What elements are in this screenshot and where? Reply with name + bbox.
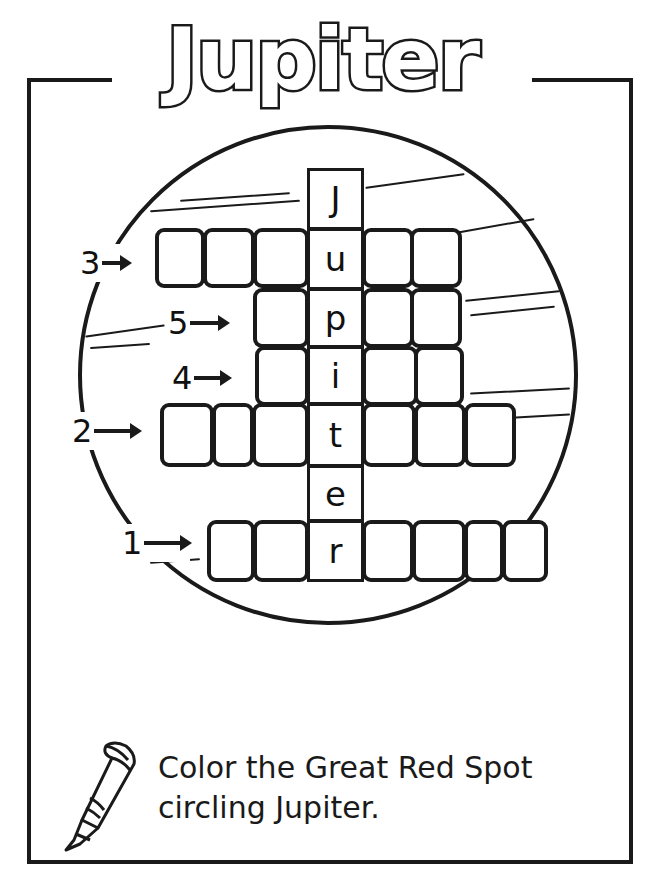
answer-cell[interactable] (362, 228, 414, 288)
key-letter-cell: i (307, 346, 364, 405)
answer-cell[interactable] (252, 403, 309, 467)
answer-cell[interactable] (362, 520, 414, 582)
answer-cell[interactable] (414, 346, 464, 406)
answer-cell[interactable] (412, 520, 466, 582)
key-letter: r (329, 534, 343, 568)
key-letter-cell: e (307, 465, 364, 522)
key-letter-cell: J (307, 168, 364, 230)
key-letter-cell: u (307, 228, 364, 290)
coloring-instructions: Color the Great Red Spot circling Jupite… (158, 748, 532, 828)
answer-cell[interactable] (414, 403, 466, 467)
arrow-right-icon (190, 321, 226, 325)
clue-4-label: 4 (170, 359, 230, 397)
answer-cell[interactable] (203, 228, 255, 288)
answer-cell[interactable] (464, 403, 516, 467)
key-letter-cell: p (307, 288, 364, 348)
answer-cell[interactable] (253, 228, 309, 288)
crayon-icon (56, 738, 140, 856)
answer-cell[interactable] (207, 520, 255, 582)
key-letter: u (325, 242, 347, 276)
instructions-line-2: circling Jupiter. (158, 788, 532, 828)
clue-2-label: 2 (70, 412, 140, 450)
answer-cell[interactable] (464, 520, 504, 582)
clue-1-label: 1 (120, 524, 190, 562)
arrow-right-icon (94, 429, 138, 433)
answer-cell[interactable] (362, 403, 416, 467)
clue-number: 1 (122, 524, 142, 562)
answer-cell[interactable] (362, 288, 414, 348)
clue-3-label: 3 (78, 244, 130, 282)
arrow-right-icon (194, 376, 228, 380)
clue-number: 5 (168, 304, 188, 342)
answer-cell[interactable] (410, 288, 462, 348)
answer-cell[interactable] (502, 520, 548, 582)
clue-number: 2 (72, 412, 92, 450)
clue-5-label: 5 (166, 304, 228, 342)
answer-cell[interactable] (155, 228, 205, 288)
answer-cell[interactable] (253, 520, 309, 582)
page-title: Jupiter (132, 4, 512, 114)
key-letter-cell: t (307, 403, 364, 467)
key-letter: p (325, 301, 347, 335)
answer-cell[interactable] (253, 288, 309, 348)
arrow-right-icon (144, 541, 188, 545)
clue-number: 3 (80, 244, 100, 282)
key-letter-cell: r (307, 520, 364, 582)
key-letter: i (331, 359, 340, 393)
clue-number: 4 (172, 359, 192, 397)
key-letter: e (325, 477, 346, 511)
answer-cell[interactable] (362, 346, 418, 406)
arrow-right-icon (102, 261, 128, 265)
answer-cell[interactable] (160, 403, 214, 467)
answer-cell[interactable] (212, 403, 254, 467)
answer-cell[interactable] (410, 228, 462, 288)
answer-cell[interactable] (255, 346, 309, 406)
key-letter: J (330, 182, 340, 216)
instructions-line-1: Color the Great Red Spot (158, 748, 532, 788)
key-letter: t (329, 418, 342, 452)
